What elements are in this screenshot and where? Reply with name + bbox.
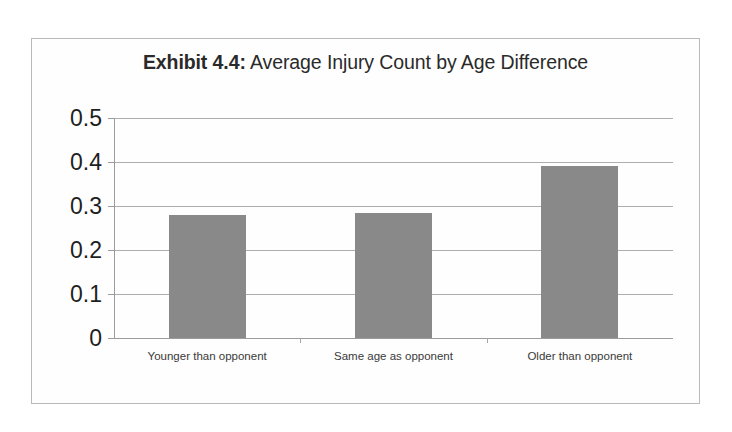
chart-title: Exhibit 4.4: Average Injury Count by Age…: [32, 51, 699, 74]
y-axis-line: [114, 118, 115, 338]
y-axis-label-0.5: 0.5: [70, 107, 102, 130]
chart-title-text: Average Injury Count by Age Difference: [246, 51, 588, 73]
category-label-3: Older than opponent: [527, 350, 632, 362]
y-tick-0.1: [108, 294, 115, 295]
bar-3: [541, 166, 618, 338]
y-axis-label-0.3: 0.3: [70, 195, 102, 218]
x-axis-category-labels: Younger than opponentSame age as opponen…: [114, 350, 673, 370]
bar-2: [355, 213, 432, 338]
category-label-2: Same age as opponent: [334, 350, 453, 362]
x-tick-2: [487, 338, 488, 343]
y-tick-0: [108, 338, 115, 339]
figure-frame: Exhibit 4.4: Average Injury Count by Age…: [31, 38, 700, 404]
y-tick-0.2: [108, 250, 115, 251]
y-tick-0.3: [108, 206, 115, 207]
y-axis-label-0.1: 0.1: [70, 283, 102, 306]
y-axis-label-0.2: 0.2: [70, 239, 102, 262]
y-tick-0.4: [108, 162, 115, 163]
x-tick-1: [300, 338, 301, 343]
bar-1: [169, 215, 246, 338]
plot-area: 00.10.20.30.40.5: [114, 118, 673, 338]
gridline-0.4: [114, 162, 673, 163]
y-tick-0.5: [108, 118, 115, 119]
gridline-0: [114, 338, 673, 339]
category-label-1: Younger than opponent: [148, 350, 267, 362]
chart-title-exhibit-number: Exhibit 4.4:: [143, 51, 246, 73]
gridline-0.5: [114, 118, 673, 119]
y-axis-label-0: 0: [89, 327, 102, 350]
y-axis-label-0.4: 0.4: [70, 151, 102, 174]
